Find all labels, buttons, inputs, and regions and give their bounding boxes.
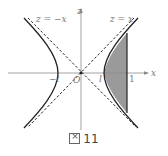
asymptote-label-pos: z = x: [109, 14, 133, 24]
line-x-label: 1: [129, 74, 135, 84]
asymptote-label-neg: z = −x: [35, 14, 67, 24]
x-axis-arrow-icon: [144, 71, 149, 75]
left-vertex-label: −l: [49, 74, 60, 84]
origin-label: O: [73, 75, 81, 85]
zu-glyph-icon: [69, 133, 80, 144]
x-axis-label: x: [151, 68, 156, 78]
caption-number: 11: [83, 132, 98, 146]
origin-point: [80, 72, 83, 75]
right-vertex-label: l: [99, 74, 102, 84]
z-axis-label: z: [76, 6, 82, 16]
figure-caption: 11: [0, 132, 168, 146]
